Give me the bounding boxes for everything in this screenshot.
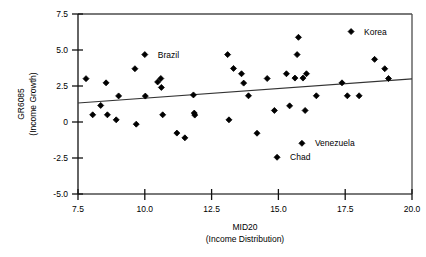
data-point-marker — [382, 66, 388, 72]
y-tick-label: 2.5 — [56, 81, 68, 91]
x-tick-label: 20.0 — [404, 204, 421, 214]
data-point-marker — [299, 140, 305, 146]
data-point-marker — [104, 112, 110, 118]
data-point-marker — [182, 135, 188, 141]
x-tick-label: 12.5 — [203, 204, 220, 214]
data-point-label: Venezuela — [315, 138, 355, 148]
data-point-marker — [225, 52, 231, 58]
data-point-marker — [231, 65, 237, 71]
x-tick-label: 17.5 — [337, 204, 354, 214]
data-point-marker — [356, 93, 362, 99]
axis-ticks — [72, 14, 412, 200]
y-tick-label: -5.0 — [53, 189, 68, 199]
data-point-marker — [241, 80, 247, 86]
data-point-marker — [348, 29, 354, 35]
x-tick-label: 7.5 — [72, 204, 84, 214]
x-axis-subtitle: (Income Distribution) — [206, 234, 285, 244]
data-point-marker — [303, 71, 309, 77]
data-point-marker — [132, 66, 138, 72]
axis-tick-labels: 7.55.02.50-2.5-5.07.510.012.515.017.520.… — [53, 9, 420, 214]
x-tick-label: 15.0 — [270, 204, 287, 214]
data-point-marker — [133, 121, 139, 127]
data-point-marker — [344, 93, 350, 99]
data-point-marker — [142, 52, 148, 58]
data-point-label: Brazil — [158, 50, 179, 60]
data-point-marker — [245, 93, 251, 99]
scatter-chart-figure: 7.55.02.50-2.5-5.07.510.012.515.017.520.… — [0, 0, 426, 257]
data-point-marker — [174, 130, 180, 136]
data-point-marker — [300, 75, 306, 81]
data-point-marker — [113, 117, 119, 123]
data-point-marker — [294, 52, 300, 58]
data-point-marker — [339, 80, 345, 86]
y-tick-label: 5.0 — [56, 45, 68, 55]
data-point-marker — [302, 107, 308, 113]
data-point-marker — [295, 34, 301, 40]
axes — [78, 14, 412, 194]
data-point-marker — [83, 76, 89, 82]
y-axis-title: GR6085 — [16, 88, 26, 120]
data-point-marker — [283, 71, 289, 77]
data-point-label: Korea — [364, 27, 387, 37]
data-point-marker — [98, 102, 104, 108]
y-tick-label: 7.5 — [56, 9, 68, 19]
data-point-marker — [292, 75, 298, 81]
data-point-label: Chad — [290, 152, 311, 162]
data-point-marker — [116, 93, 122, 99]
data-point-marker — [271, 107, 277, 113]
data-point-marker — [287, 103, 293, 109]
data-point-marker — [313, 93, 319, 99]
data-point-marker — [239, 71, 245, 77]
data-point-marker — [264, 76, 270, 82]
y-tick-label: -2.5 — [53, 153, 68, 163]
plot-canvas: 7.55.02.50-2.5-5.07.510.012.515.017.520.… — [0, 0, 426, 257]
x-axis-title: MID20 — [232, 222, 257, 232]
data-point-marker — [372, 56, 378, 62]
y-tick-label: 0 — [63, 117, 68, 127]
data-point-marker — [103, 80, 109, 86]
data-point-marker — [226, 117, 232, 123]
data-point-marker — [160, 112, 166, 118]
data-point-marker — [190, 92, 196, 98]
data-point-marker — [90, 112, 96, 118]
y-axis-subtitle: (Income Growth) — [28, 72, 38, 135]
data-point-marker — [274, 154, 280, 160]
data-point-marker — [158, 84, 164, 90]
x-tick-label: 10.0 — [137, 204, 154, 214]
data-point-marker — [254, 130, 260, 136]
